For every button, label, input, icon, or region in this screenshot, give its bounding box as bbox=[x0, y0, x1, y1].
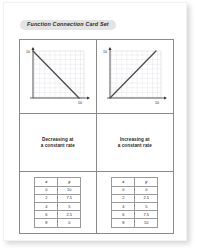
cell-x: 2 bbox=[112, 194, 135, 202]
table-row: 0 10 bbox=[35, 186, 81, 194]
card-table-increasing[interactable]: x y 0 0 2 2.5 bbox=[97, 172, 174, 233]
cell-x: 6 bbox=[112, 211, 135, 219]
cell-x: 8 bbox=[35, 219, 58, 227]
xy-table-decreasing: x y 0 10 2 7.5 bbox=[34, 177, 81, 227]
table-row: 4 5 bbox=[112, 203, 158, 211]
table-header-row: x y bbox=[112, 178, 158, 186]
cell-x: 4 bbox=[35, 203, 58, 211]
graph-increasing-wrapper: 10 10 bbox=[97, 40, 174, 113]
table-row: 2 7.5 bbox=[35, 194, 81, 202]
x-axis-tick-label: 10 bbox=[155, 101, 159, 105]
table-increasing-wrapper: x y 0 0 2 2.5 bbox=[97, 172, 174, 233]
cell-x: 8 bbox=[112, 219, 135, 227]
cell-y: 0 bbox=[135, 186, 158, 194]
column-header-y: y bbox=[58, 178, 81, 186]
page-title-pill: Function Connection Card Set bbox=[20, 20, 116, 30]
table-decreasing-wrapper: x y 0 10 2 7.5 bbox=[20, 172, 96, 233]
card-description-decreasing[interactable]: Decreasing at a constant rate bbox=[20, 114, 97, 172]
table-header-row: x y bbox=[35, 178, 81, 186]
y-axis-tick-label: 10 bbox=[103, 50, 107, 54]
description-line-2: a constant rate bbox=[118, 143, 152, 148]
cell-x: 0 bbox=[35, 186, 58, 194]
cell-y: 5 bbox=[58, 203, 81, 211]
x-axis-tick-label: 10 bbox=[78, 101, 82, 105]
worksheet-page: Function Connection Card Set bbox=[3, 2, 187, 241]
description-line-1: Decreasing at bbox=[42, 137, 73, 142]
xy-table-increasing: x y 0 0 2 2.5 bbox=[111, 177, 158, 227]
cell-x: 2 bbox=[35, 194, 58, 202]
cell-y: 2.5 bbox=[58, 211, 81, 219]
description-line-1: Increasing at bbox=[120, 137, 150, 142]
description-line-2: a constant rate bbox=[41, 143, 75, 148]
cell-y: 10 bbox=[58, 186, 81, 194]
card-description-increasing[interactable]: Increasing at a constant rate bbox=[97, 114, 174, 172]
cell-x: 0 bbox=[112, 186, 135, 194]
cell-y: 5 bbox=[135, 203, 158, 211]
card-graph-increasing[interactable]: 10 10 bbox=[97, 40, 174, 114]
y-axis-tick-label: 10 bbox=[26, 50, 30, 54]
table-row: 4 5 bbox=[35, 203, 81, 211]
table-row: 8 0 bbox=[35, 219, 81, 227]
column-header-y: y bbox=[135, 178, 158, 186]
cell-y: 7.5 bbox=[58, 194, 81, 202]
cell-y: 2.5 bbox=[135, 194, 158, 202]
cell-y: 7.5 bbox=[135, 211, 158, 219]
card-grid: 10 10 bbox=[19, 39, 174, 234]
table-row: 8 10 bbox=[112, 219, 158, 227]
cell-y: 10 bbox=[135, 219, 158, 227]
description-decreasing: Decreasing at a constant rate bbox=[20, 114, 96, 171]
table-row: 6 2.5 bbox=[35, 211, 81, 219]
cell-x: 4 bbox=[112, 203, 135, 211]
description-increasing: Increasing at a constant rate bbox=[97, 114, 174, 171]
column-header-x: x bbox=[112, 178, 135, 186]
page-title: Function Connection Card Set bbox=[27, 22, 109, 27]
table-row: 0 0 bbox=[112, 186, 158, 194]
cell-x: 6 bbox=[35, 211, 58, 219]
cell-y: 0 bbox=[58, 219, 81, 227]
column-header-x: x bbox=[35, 178, 58, 186]
graph-decreasing-wrapper: 10 10 bbox=[20, 40, 96, 113]
card-graph-decreasing[interactable]: 10 10 bbox=[20, 40, 97, 114]
increasing-line-graph: 10 10 bbox=[101, 45, 169, 108]
table-row: 2 2.5 bbox=[112, 194, 158, 202]
screenshot-root: Function Connection Card Set bbox=[0, 0, 198, 250]
card-table-decreasing[interactable]: x y 0 10 2 7.5 bbox=[20, 172, 97, 233]
decreasing-line-graph: 10 10 bbox=[24, 45, 92, 108]
table-row: 6 7.5 bbox=[112, 211, 158, 219]
